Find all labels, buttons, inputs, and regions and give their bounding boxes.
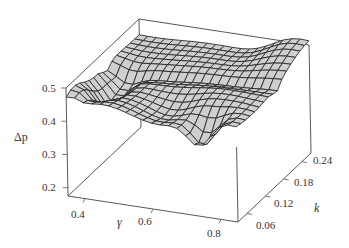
y-tick-label-0.12: 0.12 [274, 198, 293, 209]
surface-mesh [66, 35, 309, 145]
y-tick-label-0.24: 0.24 [313, 155, 332, 166]
z-tick-label-0.3: 0.3 [42, 149, 56, 160]
y-axis-title: k [314, 202, 319, 214]
x-tick-label-0.6: 0.6 [138, 216, 152, 227]
y-tick-label-0.06: 0.06 [256, 220, 275, 231]
z-tick-label-0.4: 0.4 [42, 116, 56, 127]
z-axis-title: Δp [14, 131, 28, 143]
z-tick-label-0.2: 0.2 [42, 182, 56, 193]
x-axis-title: γ [117, 216, 122, 228]
x-tick-label-0.4: 0.4 [71, 209, 85, 220]
x-tick-label-0.8: 0.8 [207, 228, 221, 239]
y-tick-label-0.18: 0.18 [294, 177, 313, 188]
z-tick-label-0.5: 0.5 [42, 83, 56, 94]
